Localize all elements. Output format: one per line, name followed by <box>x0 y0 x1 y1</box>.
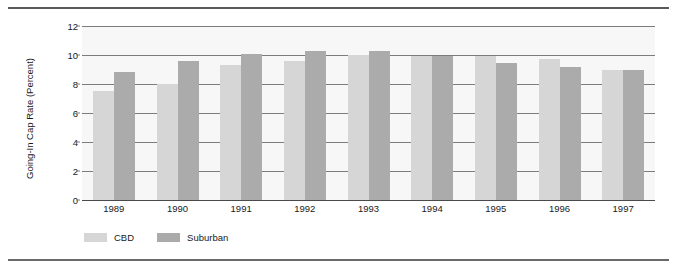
x-tick-label-1996: 1996 <box>549 203 570 214</box>
y-tick-label-0: 0 <box>52 195 78 206</box>
x-tick-label-1991: 1991 <box>231 203 252 214</box>
y-tick-mark-8 <box>76 84 80 85</box>
figure: Going-In Cap Rate (Percent) 024681012 19… <box>0 0 677 268</box>
bar-suburban-1994 <box>432 56 453 200</box>
y-tick-label-4: 4 <box>52 137 78 148</box>
bar-cbd-1989 <box>93 91 114 200</box>
bar-cbd-1994 <box>411 56 432 200</box>
legend-label-cbd: CBD <box>114 232 134 243</box>
gridline-12 <box>82 26 655 27</box>
legend-item-cbd: CBD <box>84 232 134 243</box>
y-tick-label-6: 6 <box>52 108 78 119</box>
gridline-0 <box>82 200 655 201</box>
legend-swatch-cbd <box>84 233 107 242</box>
bar-cbd-1996 <box>539 59 560 200</box>
y-tick-mark-6 <box>76 113 80 114</box>
x-tick-label-1993: 1993 <box>358 203 379 214</box>
y-tick-mark-0 <box>76 200 80 201</box>
chart-legend: CBDSuburban <box>84 232 228 243</box>
bar-suburban-1997 <box>623 70 644 200</box>
bottom-divider-rule <box>8 259 669 261</box>
x-tick-label-1992: 1992 <box>294 203 315 214</box>
bar-cbd-1995 <box>475 56 496 200</box>
legend-item-suburban: Suburban <box>157 232 228 243</box>
bar-suburban-1989 <box>114 72 135 200</box>
x-tick-label-1989: 1989 <box>103 203 124 214</box>
bar-suburban-1996 <box>560 67 581 200</box>
bar-cbd-1990 <box>157 84 178 200</box>
bar-cbd-1992 <box>284 61 305 200</box>
y-axis-title: Going-In Cap Rate (Percent) <box>24 39 35 199</box>
bar-suburban-1993 <box>369 51 390 200</box>
x-tick-label-1995: 1995 <box>485 203 506 214</box>
y-axis: 024681012 <box>48 26 78 200</box>
x-tick-label-1994: 1994 <box>422 203 443 214</box>
x-axis: 198919901991199219931994199519961997 <box>82 203 655 219</box>
bar-cbd-1991 <box>220 65 241 200</box>
top-divider-rule <box>8 7 669 9</box>
y-tick-mark-4 <box>76 142 80 143</box>
y-tick-label-12: 12 <box>52 21 78 32</box>
bar-cbd-1997 <box>602 70 623 201</box>
plot-area <box>82 26 655 200</box>
y-tick-label-2: 2 <box>52 166 78 177</box>
x-tick-label-1990: 1990 <box>167 203 188 214</box>
y-tick-mark-12 <box>76 26 80 27</box>
legend-swatch-suburban <box>157 233 180 242</box>
y-tick-mark-10 <box>76 55 80 56</box>
legend-label-suburban: Suburban <box>187 232 228 243</box>
y-tick-mark-2 <box>76 171 80 172</box>
x-tick-label-1997: 1997 <box>613 203 634 214</box>
bar-suburban-1995 <box>496 63 517 200</box>
bar-suburban-1991 <box>241 54 262 200</box>
y-tick-label-10: 10 <box>52 50 78 61</box>
y-tick-label-8: 8 <box>52 79 78 90</box>
bar-cbd-1993 <box>348 55 369 200</box>
bar-suburban-1990 <box>178 61 199 200</box>
bar-suburban-1992 <box>305 51 326 200</box>
